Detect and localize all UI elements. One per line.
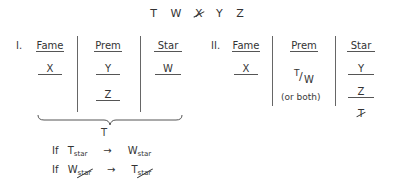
s2-prem-t-or-w: T / W xyxy=(291,70,321,88)
s2-star-header: Star xyxy=(347,40,375,52)
scenario-1-label: I. xyxy=(16,40,22,51)
struck-t: T xyxy=(358,108,364,119)
scenario-2-label: II. xyxy=(211,40,220,51)
letter-x-struck: X xyxy=(195,7,203,20)
s2-prem-w: W xyxy=(304,74,314,85)
s2-fame-header: Fame xyxy=(232,40,260,52)
s2-divider-2 xyxy=(335,36,336,106)
s1-fame-header: Fame xyxy=(36,40,64,52)
s2-fame-entry: X xyxy=(234,63,258,75)
s2-star-entry-2: Z xyxy=(348,86,374,98)
letter-pool: T W X Y Z xyxy=(0,7,394,20)
slash: / xyxy=(299,70,303,83)
letter-t: T xyxy=(150,7,157,20)
rule-1-left-sub: star xyxy=(74,150,88,158)
s2-divider-1 xyxy=(272,36,273,106)
rule-2-prefix: If xyxy=(52,164,58,175)
rule-2-right: T xyxy=(132,164,138,175)
rule-1-right-sub: star xyxy=(138,150,152,158)
rule-1-prefix: If xyxy=(52,145,58,156)
s1-star-entry: W xyxy=(155,63,181,75)
arrow-right-icon: → xyxy=(94,164,128,175)
s2-star-entry-1: Y xyxy=(348,63,374,75)
letter-w: W xyxy=(171,7,182,20)
rule-2-right-sub-struck: star xyxy=(138,169,152,177)
s1-prem-entry-1: Y xyxy=(96,63,120,75)
s1-prem-entry-2: Z xyxy=(96,89,120,101)
s2-prem-note: (or both) xyxy=(281,92,321,102)
s1-star-header: Star xyxy=(154,40,182,52)
s2-star-entry-3-struck: T xyxy=(355,108,367,119)
rule-2-left: W xyxy=(68,164,78,175)
rule-1: If Tstar → Wstar xyxy=(52,145,151,156)
s1-divider-2 xyxy=(140,36,141,112)
rule-2: If Wstar → Tstar xyxy=(52,164,151,175)
s1-divider-1 xyxy=(77,36,78,112)
rule-2-left-sub-struck: star xyxy=(78,169,92,177)
s1-fame-entry: X xyxy=(38,63,62,75)
brace-label: T xyxy=(101,127,107,138)
s1-prem-header: Prem xyxy=(94,40,122,52)
arrow-right-icon: → xyxy=(91,145,125,156)
brace-icon xyxy=(36,114,184,128)
letter-y: Y xyxy=(216,7,223,20)
rule-1-left: T xyxy=(68,145,74,156)
rule-1-right: W xyxy=(128,145,138,156)
letter-z: Z xyxy=(236,7,244,20)
s2-prem-header: Prem xyxy=(290,40,318,52)
